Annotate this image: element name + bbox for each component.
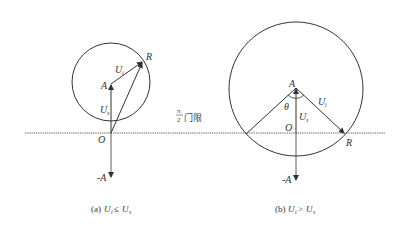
point-r-a: R — [145, 51, 152, 62]
svg-text:U: U — [306, 204, 313, 214]
svg-text:U: U — [104, 204, 111, 214]
threshold-two: 2 — [177, 116, 181, 124]
diagram-b: A O R -A θ U i U s (b) U i > U s — [229, 22, 363, 215]
point-a-a: A — [100, 80, 108, 91]
svg-text:U: U — [122, 204, 129, 214]
svg-text:i: i — [295, 209, 297, 215]
point-neg-a-b: -A — [282, 174, 292, 185]
diagram-a: R A O -A U i U s (a) U i ≤ U s — [72, 43, 152, 215]
point-neg-a-a: -A — [97, 172, 107, 183]
caption-b: (b) U i > U s — [275, 204, 316, 215]
svg-text:i: i — [111, 209, 113, 215]
point-a-b: A — [288, 78, 296, 89]
label-us-a: U s — [100, 104, 110, 116]
svg-text:s: s — [107, 110, 110, 116]
label-ui-a: U i — [115, 64, 124, 76]
svg-text:U: U — [288, 204, 295, 214]
svg-text:≤: ≤ — [114, 204, 119, 214]
threshold-pi: π — [177, 107, 181, 115]
label-ui-b: U i — [318, 96, 327, 108]
svg-text:>: > — [298, 204, 303, 214]
svg-text:s: s — [313, 209, 316, 215]
svg-text:i: i — [325, 102, 327, 108]
point-o-a: O — [98, 134, 105, 145]
svg-text:(a): (a) — [91, 204, 101, 214]
label-us-b: U s — [299, 111, 309, 123]
svg-text:s: s — [306, 117, 309, 123]
point-r-b: R — [345, 137, 352, 148]
point-o-b: O — [285, 122, 292, 133]
svg-text:(b): (b) — [275, 204, 286, 214]
threshold-text: 门限 — [184, 112, 202, 123]
phasor-diagram-canvas: π 2 门限 R A O -A U i U s (a) U i ≤ — [0, 0, 409, 228]
angle-theta-label: θ — [284, 101, 289, 112]
threshold-label: π 2 门限 — [176, 107, 202, 124]
caption-a: (a) U i ≤ U s — [91, 204, 132, 215]
svg-text:s: s — [129, 209, 132, 215]
